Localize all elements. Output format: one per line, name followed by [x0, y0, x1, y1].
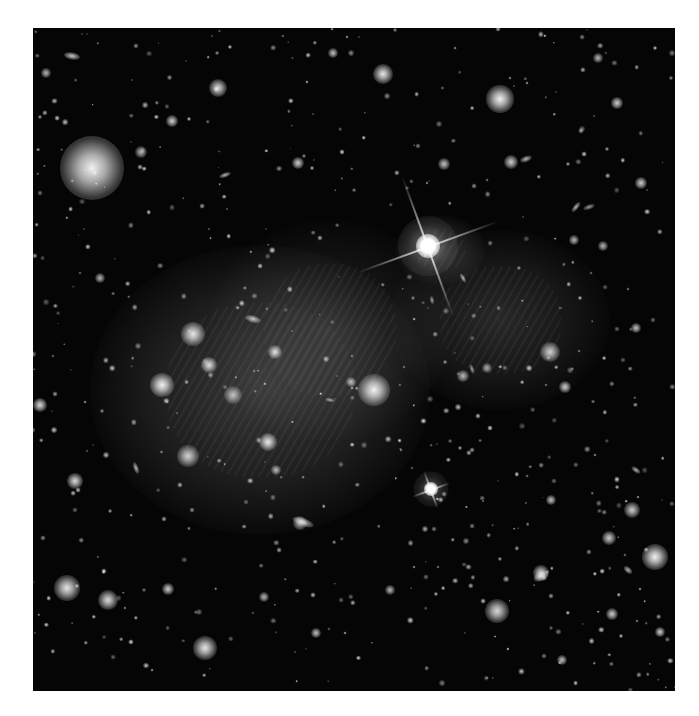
faint-star: [377, 524, 381, 528]
faint-star: [341, 177, 343, 179]
faint-star: [254, 390, 257, 393]
faint-star: [496, 306, 501, 311]
faint-star: [544, 96, 547, 99]
faint-star: [328, 628, 331, 631]
faint-star: [96, 556, 98, 558]
faint-star: [327, 681, 329, 683]
faint-star: [318, 235, 323, 240]
faint-star: [528, 465, 532, 469]
faint-star: [51, 410, 53, 412]
faint-star: [334, 189, 336, 191]
faint-star: [402, 365, 405, 368]
faint-star: [361, 135, 366, 140]
faint-star: [78, 234, 80, 236]
faint-star: [102, 635, 106, 639]
faint-star: [123, 606, 126, 609]
faint-star: [310, 166, 314, 170]
faint-star: [497, 480, 499, 482]
faint-star: [157, 263, 163, 269]
faint-star: [464, 632, 466, 634]
faint-star: [580, 35, 585, 40]
faint-star: [384, 93, 390, 99]
faint-star: [549, 594, 554, 599]
faint-star: [205, 119, 210, 124]
faint-star: [313, 559, 318, 564]
faint-star: [650, 317, 655, 322]
faint-star: [53, 304, 57, 308]
faint-star: [295, 680, 298, 683]
faint-star: [270, 618, 275, 623]
faint-star: [122, 592, 125, 595]
faint-star: [146, 210, 151, 215]
faint-star: [352, 188, 356, 192]
galaxy-cluster-photo: [33, 28, 675, 691]
faint-star: [86, 244, 91, 249]
faint-star: [129, 114, 133, 118]
faint-star: [287, 42, 289, 44]
elongated-galaxy: [570, 201, 582, 213]
galaxy: [150, 373, 174, 397]
faint-star: [43, 165, 45, 167]
elongated-galaxy: [519, 154, 532, 164]
faint-star: [350, 600, 355, 605]
elongated-galaxy: [132, 462, 141, 475]
faint-star: [481, 598, 486, 603]
faint-star: [636, 672, 641, 677]
faint-star: [644, 209, 650, 215]
faint-star: [573, 681, 578, 686]
faint-star: [410, 588, 412, 590]
faint-star: [334, 583, 336, 585]
faint-star: [338, 127, 342, 131]
faint-star: [486, 533, 491, 538]
galaxy: [95, 273, 105, 283]
galaxy: [311, 628, 321, 638]
faint-star: [636, 620, 639, 623]
faint-star: [582, 152, 587, 157]
faint-star: [242, 524, 247, 529]
galaxy: [292, 157, 304, 169]
faint-star: [602, 357, 606, 361]
faint-star: [264, 461, 266, 463]
faint-star: [154, 114, 158, 118]
elongated-galaxy: [219, 171, 232, 180]
faint-star: [146, 51, 152, 57]
galaxy: [486, 85, 514, 113]
faint-star: [614, 187, 620, 193]
faint-star: [60, 148, 64, 152]
faint-star: [413, 318, 416, 321]
faint-star: [488, 241, 493, 246]
faint-star: [508, 77, 511, 80]
faint-star: [51, 427, 57, 433]
faint-star: [395, 477, 397, 479]
faint-star: [573, 462, 578, 467]
faint-star: [108, 509, 112, 513]
faint-star: [430, 444, 433, 447]
faint-star: [462, 562, 467, 567]
faint-star: [498, 557, 502, 561]
faint-star: [431, 527, 436, 532]
faint-star: [571, 261, 574, 264]
faint-star: [578, 128, 583, 133]
faint-star: [92, 444, 94, 446]
elongated-galaxy: [583, 203, 596, 212]
faint-star: [642, 467, 648, 473]
faint-star: [271, 495, 276, 500]
faint-star: [239, 301, 245, 307]
faint-star: [34, 30, 37, 33]
faint-star: [339, 462, 344, 467]
faint-star: [291, 57, 293, 59]
faint-star: [133, 43, 138, 48]
faint-star: [386, 436, 392, 442]
faint-star: [514, 472, 518, 476]
faint-star: [226, 208, 228, 210]
faint-star: [182, 197, 184, 199]
faint-star: [486, 179, 489, 182]
faint-star: [487, 426, 492, 431]
galaxy: [271, 465, 281, 475]
faint-star: [166, 426, 170, 430]
faint-star: [287, 287, 292, 292]
faint-star: [125, 281, 131, 287]
faint-star: [590, 271, 593, 274]
faint-star: [555, 365, 559, 369]
elongated-galaxy: [468, 364, 475, 375]
